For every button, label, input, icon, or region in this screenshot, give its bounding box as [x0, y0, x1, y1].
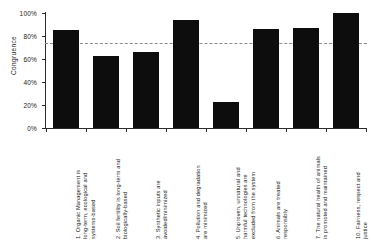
- bar-8: [333, 13, 359, 128]
- x-axis-tickmark-4: [206, 129, 207, 132]
- y-axis-tick-100: 100%: [20, 10, 37, 17]
- bar-4: [173, 20, 199, 128]
- x-axis-label-4: 4. Pollution and degradationare minimize…: [195, 134, 210, 239]
- y-axis-tick-0: 0%: [27, 125, 37, 132]
- x-axis-tickmark-end: [366, 129, 367, 132]
- x-axis-label-1: 1. Organic Management islong-term, ecolo…: [75, 134, 97, 239]
- x-axis-label-6: 6. Animals are treatedresponsibly: [275, 134, 290, 239]
- x-axis-tickmark-6: [286, 129, 287, 132]
- y-axis-tick-20: 20%: [23, 102, 37, 109]
- x-axis-label-2: 2. Soil fertility is long-term andbiolog…: [115, 134, 130, 239]
- bar-1: [53, 30, 79, 128]
- x-axis-label-5: 5. Unproven, unnatural andharmful techno…: [235, 134, 257, 239]
- x-axis-label-8: 10. Fairness, respect andjustice: [355, 134, 370, 239]
- x-axis-tickmark-1: [86, 129, 87, 132]
- bar-5: [213, 102, 239, 128]
- y-axis-tick-labels: 0%20%40%60%80%100%: [0, 0, 46, 243]
- y-axis-tick-40: 40%: [23, 79, 37, 86]
- x-axis-tickmark-0: [46, 129, 47, 132]
- y-axis-tick-60: 60%: [23, 56, 37, 63]
- x-axis-tickmark-2: [126, 129, 127, 132]
- x-axis-tickmark-5: [246, 129, 247, 132]
- congruence-bar-chart: Congruence 0%20%40%60%80%100% 1. Organic…: [0, 0, 371, 243]
- y-axis-tick-80: 80%: [23, 33, 37, 40]
- bar-2: [93, 56, 119, 128]
- bar-7: [293, 28, 319, 128]
- bar-3: [133, 52, 159, 128]
- x-axis-tickmark-3: [166, 129, 167, 132]
- bar-6: [253, 29, 279, 128]
- x-axis-label-3: 3. Synthetic inputs areavoided/minimized: [155, 134, 170, 239]
- x-axis-label-7: 7. The natural health of animalsis promo…: [315, 134, 330, 239]
- x-axis-tickmark-7: [326, 129, 327, 132]
